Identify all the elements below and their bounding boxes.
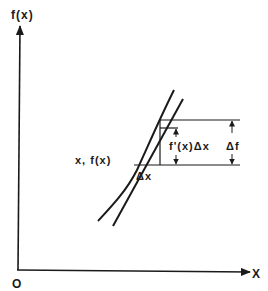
x-axis-label: X <box>252 267 260 281</box>
y-axis-label: f(x) <box>11 8 34 22</box>
tangent-line <box>113 99 183 226</box>
y-axis <box>18 26 20 270</box>
origin-label: O <box>12 277 21 291</box>
delta-x-label: Δx <box>136 170 152 182</box>
x-axis <box>17 270 250 272</box>
delta-f-label: Δf <box>226 140 240 152</box>
derivative-diagram: f(x) X O x, f(x) Δx f'(x)Δx Δf <box>0 0 268 291</box>
point-label: x, f(x) <box>75 154 111 166</box>
tangent-increment-label: f'(x)Δx <box>169 140 210 152</box>
